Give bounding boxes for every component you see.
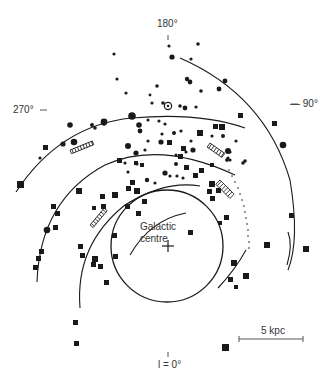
dotted-arc: [228, 169, 250, 249]
label-scale: 5 kpc: [261, 325, 285, 336]
sun-position-icon: [164, 102, 171, 109]
outer-arc-right: [180, 58, 295, 270]
label-galactic-centre: Galactic centre: [140, 221, 176, 245]
circle-markers: [38, 42, 286, 233]
label-0: l = 0°: [158, 359, 181, 370]
arc-second: [37, 155, 235, 282]
label-270: 270°: [13, 104, 34, 115]
scale-bar: [239, 336, 303, 342]
label-90: — 90°: [290, 98, 318, 109]
arc-third: [80, 185, 200, 308]
centre-line-2: centre: [140, 233, 176, 245]
longitude-ticks: [40, 35, 298, 357]
centre-line-1: Galactic: [140, 221, 176, 233]
arc-right-tail: [287, 232, 290, 265]
galaxy-spiral-diagram: 180° 270° — 90° l = 0° Galactic centre 5…: [0, 0, 329, 383]
label-180: 180°: [157, 18, 178, 29]
